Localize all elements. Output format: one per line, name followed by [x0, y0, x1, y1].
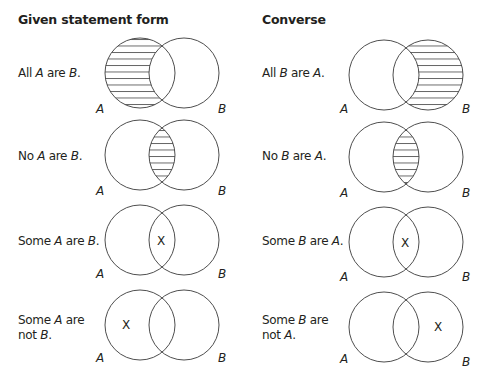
venn-converse-all-b-are-a: A B: [339, 37, 470, 116]
label-a: A: [95, 351, 104, 365]
label-a: A: [339, 270, 348, 284]
x-mark: X: [434, 320, 442, 334]
venn-given-some-a-are-not-b: X A B: [95, 290, 226, 365]
label-b: B: [218, 102, 226, 116]
hatch-b-only: [390, 37, 470, 113]
label-b: B: [462, 355, 470, 369]
label-a: A: [95, 184, 104, 198]
label-a: A: [95, 102, 104, 116]
venn-diagrams: A B A B A B A B X A B: [0, 0, 487, 385]
x-mark: X: [157, 234, 165, 248]
x-mark: X: [122, 318, 130, 332]
venn-given-some-a-are-b: X A B: [95, 205, 226, 281]
label-b: B: [218, 267, 226, 281]
circle-a: [105, 290, 175, 360]
hatch-a-only: [100, 35, 190, 111]
label-a: A: [339, 352, 348, 366]
label-b: B: [462, 186, 470, 200]
label-b: B: [462, 102, 470, 116]
label-a: A: [339, 102, 348, 116]
circle-b: [393, 292, 463, 362]
label-b: B: [462, 270, 470, 284]
venn-converse-no-b-are-a: A B: [339, 122, 470, 200]
venn-converse-some-b-are-a: X A B: [339, 207, 470, 284]
label-a: A: [339, 186, 348, 200]
label-b: B: [218, 184, 226, 198]
circle-b: [149, 290, 219, 360]
venn-given-all-a-are-b: A B: [95, 35, 226, 116]
venn-given-no-a-are-b: A B: [95, 120, 226, 198]
label-a: A: [95, 267, 104, 281]
x-mark: X: [401, 236, 409, 250]
circle-a: [349, 292, 419, 362]
venn-converse-some-b-are-not-a: X A B: [339, 292, 470, 369]
label-b: B: [218, 351, 226, 365]
